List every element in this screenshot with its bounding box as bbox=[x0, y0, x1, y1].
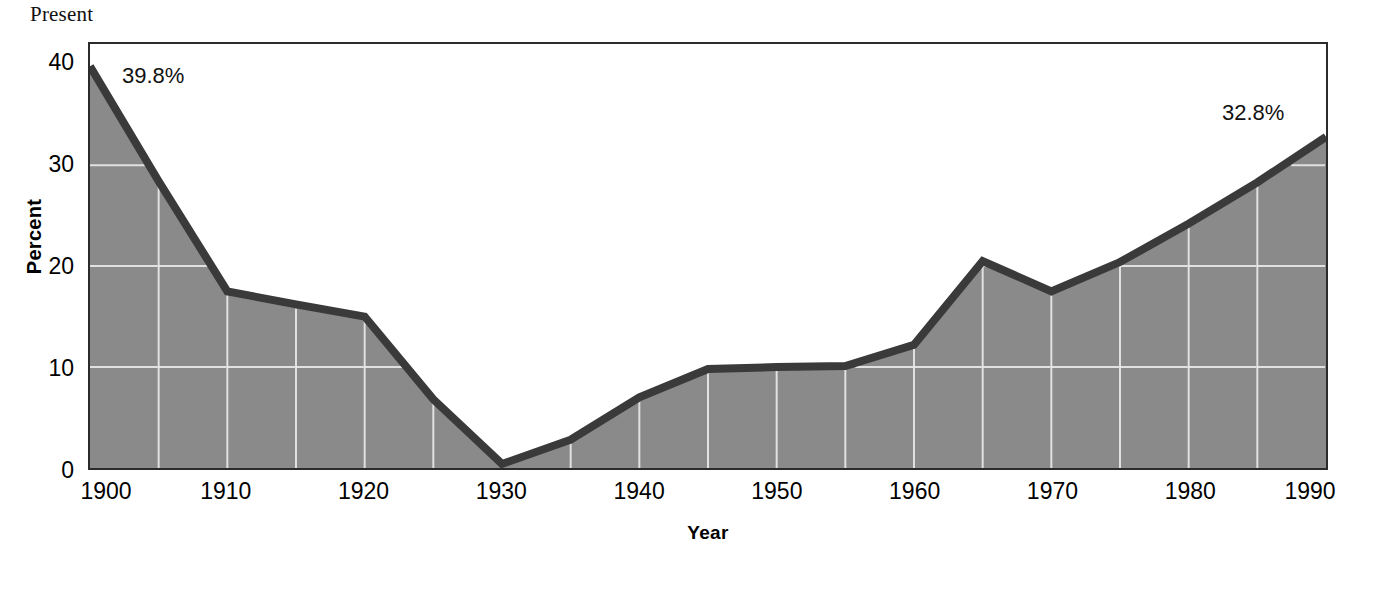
y-tick-0: 0 bbox=[61, 457, 74, 484]
annotation-start-value: 39.8% bbox=[122, 63, 184, 89]
y-tick-20: 20 bbox=[48, 253, 74, 280]
chart-title: Present bbox=[30, 2, 93, 27]
x-tick-1920: 1920 bbox=[338, 478, 389, 505]
x-axis-tick-labels: 1900191019201930194019501960197019801990 bbox=[88, 478, 1328, 512]
x-tick-1960: 1960 bbox=[889, 478, 940, 505]
chart-figure: Present 010203040 Percent 19001910192019… bbox=[0, 0, 1374, 589]
x-tick-1940: 1940 bbox=[614, 478, 665, 505]
x-tick-1900: 1900 bbox=[80, 478, 131, 505]
x-tick-1980: 1980 bbox=[1165, 478, 1216, 505]
y-tick-40: 40 bbox=[48, 49, 74, 76]
x-tick-1910: 1910 bbox=[200, 478, 251, 505]
y-tick-30: 30 bbox=[48, 151, 74, 178]
x-tick-1990: 1990 bbox=[1284, 478, 1335, 505]
area-chart-plot bbox=[90, 44, 1326, 468]
annotation-end-value: 32.8% bbox=[1222, 100, 1284, 126]
plot-area bbox=[88, 42, 1328, 470]
y-tick-10: 10 bbox=[48, 355, 74, 382]
x-tick-1970: 1970 bbox=[1027, 478, 1078, 505]
x-axis-title: Year bbox=[88, 522, 1328, 544]
x-tick-1950: 1950 bbox=[751, 478, 802, 505]
x-tick-1930: 1930 bbox=[476, 478, 527, 505]
y-axis-title: Percent bbox=[23, 177, 46, 297]
